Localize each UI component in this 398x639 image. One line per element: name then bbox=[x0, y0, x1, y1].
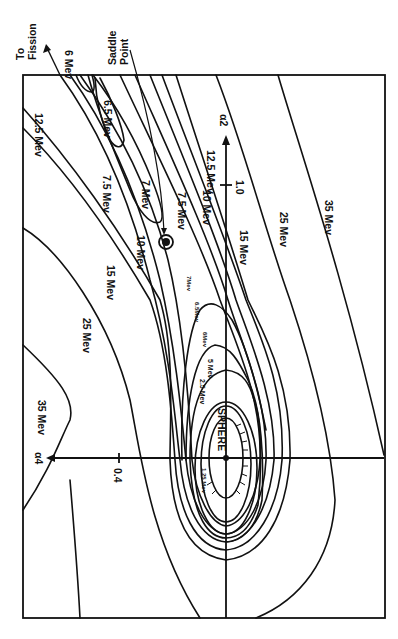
label-7mev-top: 7 Mev bbox=[140, 180, 152, 209]
label-15mev-left: 15 Mev bbox=[105, 265, 117, 300]
label-6-5mev-top: 6.5 Mev bbox=[102, 100, 114, 138]
alpha4-tick-label: 0.4 bbox=[112, 468, 124, 483]
label-25mev-right: 25 Mev bbox=[278, 212, 290, 247]
label-10mev-right: 10 Mev bbox=[201, 190, 213, 225]
to-fission-arrowhead-icon bbox=[43, 44, 51, 53]
to-fission-label-line1: To bbox=[14, 48, 26, 60]
label-15mev-right: 15 Mev bbox=[238, 230, 250, 265]
labels: To Fission Saddle Point 6 Mev 6.5 Mev 7 … bbox=[14, 23, 335, 493]
label-35mev-left: 35 Mev bbox=[36, 400, 48, 435]
label-1-25mev: 1.25 Mev bbox=[201, 468, 207, 494]
label-35mev-right: 35 Mev bbox=[323, 200, 335, 235]
label-7mev-inner: 7Mev bbox=[186, 276, 192, 292]
to-fission-arrow-line bbox=[48, 50, 60, 75]
label-12-5mev-right: 12.5 Mev bbox=[205, 150, 217, 194]
label-12-5mev-left: 12.5 Mev bbox=[33, 113, 45, 157]
contour-35mev-right bbox=[278, 75, 384, 455]
contour-15mev bbox=[23, 75, 290, 560]
contour-7-5mev bbox=[70, 75, 266, 534]
alpha2-tick-label: 1.0 bbox=[234, 180, 246, 195]
sphere-origin-dot bbox=[223, 455, 229, 461]
label-5mev: 5 Mev bbox=[207, 359, 214, 379]
label-10mev-left: 10 Mev bbox=[135, 235, 147, 270]
contour-12-5mev bbox=[23, 75, 282, 550]
saddle-label-line1: Saddle bbox=[106, 30, 118, 65]
label-25mev-left: 25 Mev bbox=[81, 318, 93, 353]
saddle-point-marker bbox=[159, 235, 173, 249]
alpha2-axis-label: α2 bbox=[218, 114, 230, 126]
label-7-5mev-right: 7.5 Mev bbox=[176, 192, 188, 230]
sphere-label: SPHERE bbox=[216, 408, 228, 451]
alpha2-arrow-icon bbox=[222, 135, 230, 145]
alpha4-axis-label: α4 bbox=[33, 452, 45, 464]
contour-35mev-lower bbox=[70, 480, 80, 618]
label-6-5mev-inner: 6.5Mev bbox=[194, 302, 200, 323]
potential-energy-contour-diagram: To Fission Saddle Point 6 Mev 6.5 Mev 7 … bbox=[0, 0, 398, 639]
saddle-arrowhead-icon bbox=[161, 228, 167, 235]
label-2-5mev: 2.5 Mev bbox=[199, 379, 206, 404]
label-6mev-inner: 6Mev bbox=[202, 332, 208, 348]
to-fission-label-line2: Fission bbox=[26, 23, 38, 60]
label-7-5mev-left: 7.5 Mev bbox=[101, 175, 113, 213]
label-6mev: 6 Mev bbox=[63, 50, 75, 79]
saddle-label-line2: Point bbox=[118, 38, 130, 65]
